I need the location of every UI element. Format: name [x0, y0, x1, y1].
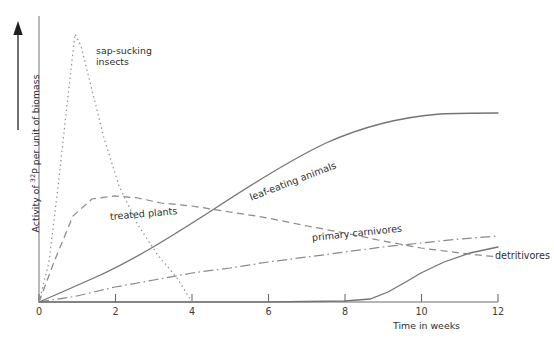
x-axis-ticks [39, 294, 498, 302]
series-label-detritivores: detritivores [495, 250, 550, 261]
x-tick-label-2: 2 [112, 306, 118, 317]
x-tick-label-6: 6 [265, 306, 271, 317]
x-tick-label-12: 12 [492, 306, 504, 317]
x-tick-label-8: 8 [342, 306, 348, 317]
y-axis-title-superscript: 32 [29, 174, 37, 182]
series-detritivores [39, 247, 498, 302]
x-tick-label-0: 0 [36, 306, 42, 317]
series-leaf-eating-animals [39, 113, 498, 302]
x-tick-label-10: 10 [415, 306, 427, 317]
y-axis-title: Activity of 32P per unit of biomass [31, 43, 42, 263]
series-treated-plants [39, 196, 498, 302]
series-label-sap-sucking-insects: sap-sucking insects [96, 45, 152, 67]
x-tick-label-4: 4 [189, 306, 195, 317]
increasing-direction-arrow [13, 21, 22, 130]
y-axis-title-suffix: P per unit of biomass [30, 74, 41, 173]
series-sap-sucking-insects [39, 34, 192, 302]
y-axis-title-prefix: Activity of [30, 182, 41, 232]
chart-plot-area [0, 0, 554, 341]
chart-figure: Activity of 32P per unit of biomass Time… [0, 0, 554, 341]
x-axis-title: Time in weeks [393, 320, 460, 331]
